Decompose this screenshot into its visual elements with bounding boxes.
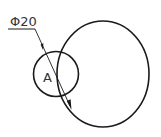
arrowhead-top-icon [41,43,44,50]
small-circle [34,52,79,97]
leader-line [35,29,70,106]
technical-drawing: Φ20 A [0,0,161,137]
dimension-label: Φ20 [10,14,37,29]
point-label-a: A [43,70,52,85]
large-circle [57,21,149,127]
